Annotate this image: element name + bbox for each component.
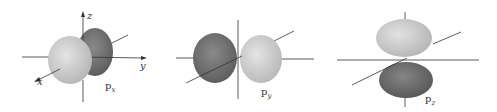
px-label: px bbox=[105, 80, 115, 94]
z-arrow-icon bbox=[81, 11, 85, 17]
y-axis-label: y bbox=[140, 60, 146, 71]
x-axis-back bbox=[433, 32, 461, 44]
py-orbital-diagram bbox=[160, 0, 330, 112]
panel-pz: pz bbox=[327, 0, 497, 112]
light-lobe bbox=[48, 36, 92, 84]
x-axis-back bbox=[272, 31, 294, 42]
pz-orbital-diagram bbox=[327, 0, 497, 112]
py-label: py bbox=[261, 86, 271, 100]
x-axis-label: x bbox=[37, 76, 43, 87]
px-orbital-diagram bbox=[0, 0, 170, 112]
light-lobe bbox=[376, 19, 432, 57]
z-axis-label: z bbox=[87, 10, 92, 21]
panel-px: z y x px bbox=[0, 0, 170, 112]
pz-label: pz bbox=[425, 93, 435, 107]
light-lobe bbox=[240, 35, 282, 83]
panel-py: py bbox=[160, 0, 330, 112]
dark-lobe bbox=[193, 33, 237, 83]
